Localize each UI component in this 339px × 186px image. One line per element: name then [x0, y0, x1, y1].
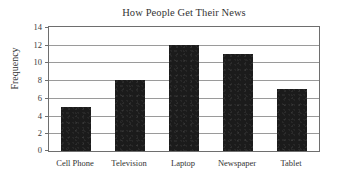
x-tick-label: Tablet — [280, 158, 301, 168]
y-tick-mark — [45, 150, 49, 151]
bar — [115, 80, 145, 151]
y-tick-label: 8 — [38, 75, 42, 85]
bar — [169, 45, 199, 151]
x-tick-label: Laptop — [171, 158, 195, 168]
y-tick-label: 0 — [38, 145, 42, 155]
bar — [61, 107, 91, 151]
y-tick-label: 10 — [34, 57, 43, 67]
x-tick-label: Cell Phone — [56, 158, 94, 168]
bar — [223, 54, 253, 151]
y-tick-mark — [45, 116, 49, 117]
plot-area: 02468101214 — [48, 26, 320, 152]
x-tick-label: Newspaper — [218, 158, 256, 168]
y-tick-mark — [45, 80, 49, 81]
chart-title: How People Get Their News — [48, 7, 320, 18]
y-tick-label: 2 — [38, 128, 42, 138]
y-axis-label: Frequency — [9, 31, 20, 107]
y-tick-label: 12 — [34, 40, 43, 50]
y-tick-label: 4 — [38, 111, 42, 121]
y-tick-label: 6 — [38, 93, 42, 103]
x-tick-label: Television — [111, 158, 146, 168]
y-tick-mark — [45, 133, 49, 134]
bar-chart-figure: How People Get Their News Frequency 0246… — [0, 0, 339, 186]
y-tick-mark — [45, 45, 49, 46]
y-tick-label: 14 — [34, 22, 43, 32]
y-tick-mark — [45, 62, 49, 63]
y-tick-mark — [45, 98, 49, 99]
bar — [277, 89, 307, 151]
y-tick-mark — [45, 27, 49, 28]
